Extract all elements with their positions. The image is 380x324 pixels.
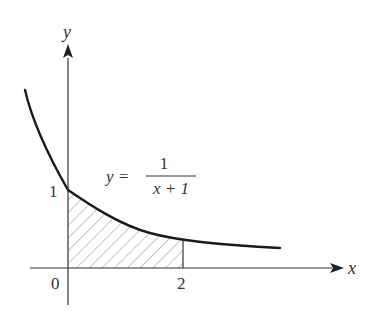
function-curve: [25, 90, 280, 248]
x-tick-label-2: 2: [177, 274, 186, 293]
diagram-canvas: y x 0 1 2 y = 1 x + 1: [0, 0, 380, 324]
y-axis-arrow-icon: [63, 44, 73, 58]
equation-lhs: y =: [104, 167, 129, 186]
origin-label: 0: [51, 274, 60, 293]
y-tick-label-1: 1: [49, 182, 58, 201]
equation-label: y = 1 x + 1: [104, 154, 196, 198]
y-axis-label: y: [61, 22, 71, 42]
equation-denominator: x + 1: [152, 179, 189, 198]
x-axis-label: x: [347, 258, 356, 278]
x-axis-arrow-icon: [330, 263, 344, 273]
equation-numerator: 1: [160, 154, 169, 173]
